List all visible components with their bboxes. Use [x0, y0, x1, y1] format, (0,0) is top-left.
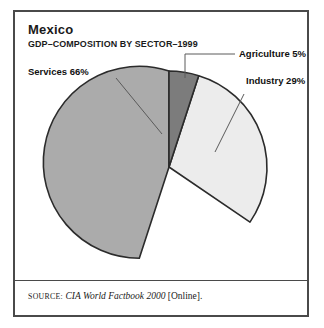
slice-label-agriculture: Agriculture 5% [239, 48, 307, 59]
source-label: SOURCE: [28, 292, 63, 301]
source-divider [15, 280, 307, 281]
pie-chart: Agriculture 5% Industry 29% Services 66% [15, 12, 309, 317]
chart-figure: Mexico GDP–COMPOSITION BY SECTOR–1999 Ag… [13, 10, 309, 317]
pie-slice-services[interactable] [43, 66, 169, 258]
source-suffix: [Online]. [168, 291, 203, 301]
slice-label-services: Services 66% [28, 66, 89, 77]
source-note: SOURCE: CIA World Factbook 2000 [Online]… [28, 291, 202, 301]
slice-label-industry: Industry 29% [246, 75, 306, 86]
source-work-title: CIA World Factbook 2000 [65, 291, 165, 301]
